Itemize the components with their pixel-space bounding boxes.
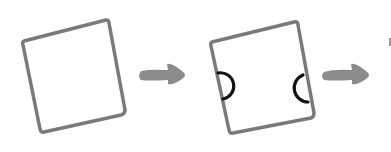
arrow-right-icon <box>322 64 369 85</box>
arrow-right-icon <box>139 64 185 85</box>
diagram-canvas <box>0 0 391 152</box>
step-2-square <box>211 22 314 133</box>
step-1-square <box>23 20 125 132</box>
